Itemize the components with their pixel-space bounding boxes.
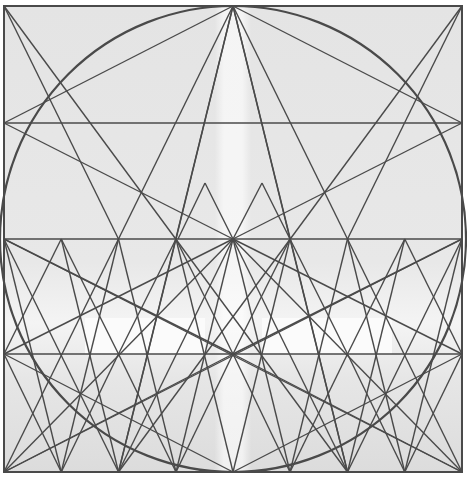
construction-line: [233, 354, 290, 472]
construction-lines: [4, 6, 462, 472]
construction-line: [233, 123, 462, 239]
construction-line: [4, 123, 233, 239]
construction-line: [4, 6, 233, 123]
geometric-construction: [0, 0, 467, 484]
construction-line: [262, 183, 290, 239]
construction-line: [119, 239, 177, 354]
diagram-canvas: [0, 0, 467, 484]
construction-line: [233, 183, 262, 239]
construction-line: [205, 183, 233, 239]
construction-line: [405, 239, 462, 472]
construction-line: [233, 239, 348, 472]
construction-line: [119, 239, 234, 472]
construction-line: [176, 354, 233, 472]
construction-line: [290, 239, 348, 354]
construction-line: [233, 6, 462, 123]
construction-line: [4, 239, 61, 472]
